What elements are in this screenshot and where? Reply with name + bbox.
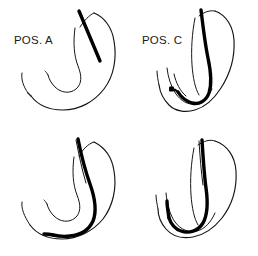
lesser-curvature-outline-b xyxy=(47,157,80,221)
body-left-wall-a xyxy=(22,73,28,93)
lesser-curvature-outline-d xyxy=(191,148,198,225)
panel-label-pos-a: POS. A xyxy=(14,35,53,47)
body-left-wall-b xyxy=(22,202,30,225)
stomach-diagram-c xyxy=(129,0,258,128)
body-left-wall-d xyxy=(156,195,158,209)
endoscope-shaft-d xyxy=(169,140,207,232)
body-left-wall-c xyxy=(157,71,159,85)
endoscope-antral-segment-b xyxy=(44,234,53,235)
panel-pos-a: POS. A xyxy=(0,0,129,128)
incisura-a xyxy=(45,71,48,75)
greater-curvature-outline-b xyxy=(30,142,115,239)
endoscope-tip-marker-c xyxy=(169,87,174,92)
incisura-b xyxy=(44,200,47,204)
endoscope-shaft-b xyxy=(53,139,95,236)
endoscope-shaft-a xyxy=(79,11,100,61)
stomach-diagram-a xyxy=(0,0,129,128)
lesser-curvature-outline-c xyxy=(192,18,199,95)
panel-pos-d: POS. D xyxy=(129,128,258,256)
endoscope-positions-figure: POS. A POS. C xyxy=(0,0,258,256)
antrum-outline-a xyxy=(28,93,31,96)
greater-curvature-outline-a xyxy=(31,13,115,110)
greater-curvature-outline-c xyxy=(159,11,234,111)
stomach-diagram-d xyxy=(129,128,258,256)
panel-label-pos-c: POS. C xyxy=(142,35,182,47)
panel-pos-b: POS. B xyxy=(0,128,129,256)
stomach-diagram-b xyxy=(0,128,129,256)
panel-pos-c: POS. C xyxy=(129,0,258,128)
endoscope-tip-d xyxy=(167,201,169,218)
